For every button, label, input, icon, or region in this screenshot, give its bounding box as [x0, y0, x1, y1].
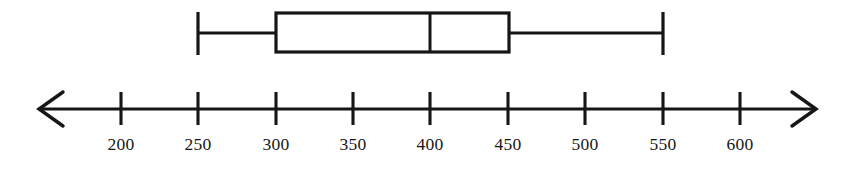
tick-label-600: 600	[727, 136, 754, 154]
tick-label-250: 250	[185, 136, 212, 154]
box-whisker-group	[198, 12, 663, 55]
tick-label-450: 450	[495, 136, 522, 154]
tick-label-400: 400	[417, 136, 444, 154]
number-line-group	[39, 92, 816, 126]
tick-label-350: 350	[340, 136, 367, 154]
tick-label-300: 300	[263, 136, 290, 154]
interquartile-box	[276, 13, 509, 52]
boxplot-figure: 200 250 300 350 400 450 500 550 600	[0, 0, 850, 173]
tick-label-550: 550	[650, 136, 677, 154]
tick-label-200: 200	[108, 136, 135, 154]
tick-label-500: 500	[572, 136, 599, 154]
